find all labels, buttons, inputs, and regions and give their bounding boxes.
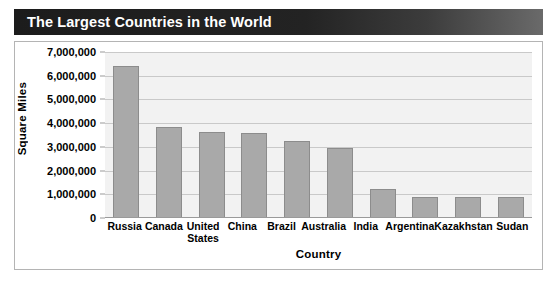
x-axis-tick-label: United States: [183, 221, 222, 244]
y-axis-title: Square Miles: [16, 82, 32, 155]
page-title: The Largest Countries in the World: [14, 14, 272, 30]
x-axis-tick-label: Argentina: [385, 221, 434, 244]
plot-area: [105, 52, 532, 218]
bar: [199, 132, 225, 218]
bar-slot: [190, 52, 233, 218]
y-axis-tick-label: 7,000,000: [47, 46, 96, 58]
bar-slot: [148, 52, 191, 218]
bar-slot: [361, 52, 404, 218]
chart-figure: The Largest Countries in the World Squar…: [0, 0, 557, 283]
chart-title-bar: The Largest Countries in the World: [14, 9, 543, 35]
x-axis-tick-label: India: [346, 221, 385, 244]
bar-series: [105, 52, 532, 218]
bar: [156, 127, 182, 218]
bar-slot: [404, 52, 447, 218]
bar: [455, 197, 481, 218]
bar: [498, 197, 524, 218]
bar-slot: [319, 52, 362, 218]
axis-baseline: [105, 217, 532, 218]
bar-slot: [489, 52, 532, 218]
y-axis-tick-label: 6,000,000: [47, 70, 96, 82]
x-axis-tick-label: Brazil: [262, 221, 301, 244]
x-axis-tick-labels: RussiaCanadaUnited StatesChinaBrazilAust…: [105, 221, 532, 244]
bar: [370, 189, 396, 218]
y-axis-tick-labels: 7,000,0006,000,0005,000,0004,000,0003,00…: [33, 52, 100, 218]
bar: [241, 133, 267, 218]
x-axis-tick-label: Australia: [301, 221, 346, 244]
x-axis-tick-label: China: [223, 221, 262, 244]
bar: [113, 66, 139, 218]
bar-slot: [276, 52, 319, 218]
bar-slot: [447, 52, 490, 218]
bar-slot: [105, 52, 148, 218]
bar: [327, 148, 353, 218]
y-axis-tick-label: 2,000,000: [47, 165, 96, 177]
y-axis-tick-label: 5,000,000: [47, 93, 96, 105]
y-axis-tick-label: 0: [90, 212, 96, 224]
x-axis-tick-label: Canada: [144, 221, 183, 244]
y-axis-tick-label: 4,000,000: [47, 117, 96, 129]
x-axis-tick-label: Russia: [105, 221, 144, 244]
x-axis-tick-label: Kazakhstan: [434, 221, 492, 244]
y-axis-tick-label: 3,000,000: [47, 141, 96, 153]
x-axis-tick-label: Sudan: [493, 221, 532, 244]
bar: [412, 197, 438, 218]
y-axis-tick-label: 1,000,000: [47, 188, 96, 200]
bar: [284, 141, 310, 218]
bar-slot: [233, 52, 276, 218]
x-axis-title: Country: [105, 248, 532, 260]
